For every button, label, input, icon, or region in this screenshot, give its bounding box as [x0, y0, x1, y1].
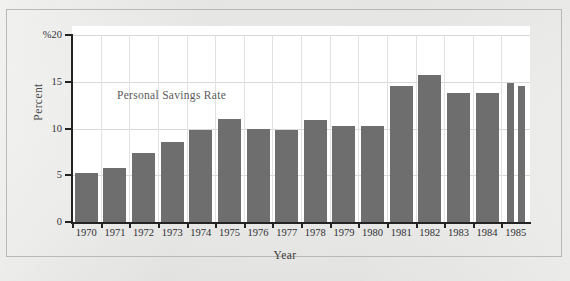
bar [275, 130, 298, 222]
y-axis-tick [65, 221, 72, 223]
x-axis-title: Year [0, 249, 570, 261]
gridline-vertical [473, 35, 474, 222]
bar [447, 93, 470, 222]
gridline-vertical [129, 35, 130, 222]
y-tick-label: 5 [32, 170, 62, 181]
gridline-vertical [330, 35, 331, 222]
bar [418, 75, 441, 222]
gridline-vertical [215, 35, 216, 222]
bar [247, 129, 270, 223]
y-tick-label: 15 [32, 77, 62, 88]
gridline-vertical [444, 35, 445, 222]
x-axis-tick [416, 222, 418, 228]
x-axis-tick [129, 222, 131, 228]
x-tick-label: 1985 [498, 228, 534, 239]
bar [518, 86, 525, 222]
x-axis-tick [387, 222, 389, 228]
bar [189, 130, 212, 222]
x-axis-tick [158, 222, 160, 228]
gridline-vertical [244, 35, 245, 222]
x-axis-tick [272, 222, 274, 228]
plot-area [72, 26, 530, 222]
gridline-vertical [387, 35, 388, 222]
y-tick-label: %20 [32, 30, 62, 41]
series-label: Personal Savings Rate [117, 89, 226, 101]
gridline-vertical [101, 35, 102, 222]
x-axis-tick [101, 222, 103, 228]
bar [161, 142, 184, 222]
x-axis-tick [501, 222, 503, 228]
x-axis-tick [244, 222, 246, 228]
gridline-vertical [158, 35, 159, 222]
bar [132, 153, 155, 222]
bar [390, 86, 413, 223]
bar [218, 119, 241, 222]
bar [332, 126, 355, 222]
gridline-vertical [416, 35, 417, 222]
gridline-vertical [301, 35, 302, 222]
gridline-vertical [358, 35, 359, 222]
y-axis-tick [65, 34, 72, 36]
gridline-vertical [501, 35, 502, 222]
y-axis-tick [65, 174, 72, 176]
x-axis-tick [301, 222, 303, 228]
gridline-vertical [187, 35, 188, 222]
gridline-vertical [272, 35, 273, 222]
y-axis-tick [65, 81, 72, 83]
y-tick-label: 10 [32, 124, 62, 135]
x-axis-tick [358, 222, 360, 228]
figure-page: Percent 051015%20 Personal Savings Rate … [0, 0, 570, 281]
y-tick-labels: 051015%20 [28, 0, 62, 248]
x-axis-tick [330, 222, 332, 228]
x-axis-tick [473, 222, 475, 228]
x-axis-tick [444, 222, 446, 228]
plot-inner [72, 35, 530, 222]
bar [361, 126, 384, 222]
x-tick-labels: 1970197119721973197419751976197719781979… [0, 228, 570, 244]
bar [507, 83, 514, 222]
x-axis-tick [72, 222, 74, 228]
bar [103, 168, 126, 222]
y-tick-label: 0 [32, 217, 62, 228]
bar [75, 173, 98, 222]
bar [304, 120, 327, 222]
x-axis-tick [187, 222, 189, 228]
x-axis-tick [215, 222, 217, 228]
bar [476, 93, 499, 222]
y-axis-tick [65, 128, 72, 130]
